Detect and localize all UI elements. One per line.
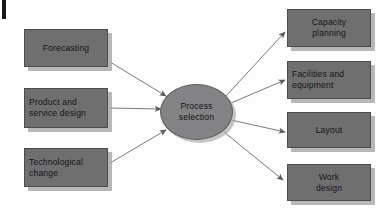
- connector-hub-to-capacity-planning: [226, 32, 285, 96]
- connector-hub-to-layout: [231, 120, 285, 132]
- node-forecasting[interactable]: Forecasting: [24, 29, 108, 67]
- node-facilities-and-equipment[interactable]: Facilities and equipment: [287, 61, 371, 99]
- node-product-and-service-design[interactable]: Product and service design: [24, 88, 108, 128]
- node-facilities-and-equipment-label: Facilities and equipment: [292, 69, 344, 91]
- process-selection-diagram: Forecasting Product and service design T…: [0, 0, 386, 219]
- node-technological-change-label: Technological change: [29, 157, 83, 179]
- node-layout-label: Layout: [316, 125, 343, 136]
- node-process-selection[interactable]: Process selection: [160, 84, 233, 140]
- node-technological-change[interactable]: Technological change: [24, 148, 108, 187]
- node-forecasting-label: Forecasting: [43, 43, 90, 54]
- node-process-selection-label: Process selection: [179, 101, 214, 124]
- node-work-design[interactable]: Work design: [287, 164, 371, 201]
- node-capacity-planning[interactable]: Capacity planning: [287, 9, 371, 47]
- node-capacity-planning-label: Capacity planning: [312, 17, 347, 39]
- connector-hub-to-work-design: [224, 132, 283, 180]
- node-product-and-service-design-label: Product and service design: [29, 97, 86, 119]
- connector-forecasting-to-hub: [110, 62, 166, 96]
- node-work-design-label: Work design: [316, 172, 342, 194]
- connector-product-design-to-hub: [110, 108, 161, 109]
- connector-technological-change-to-hub: [110, 130, 166, 163]
- connector-hub-to-facilities: [231, 80, 285, 103]
- node-layout[interactable]: Layout: [287, 112, 371, 148]
